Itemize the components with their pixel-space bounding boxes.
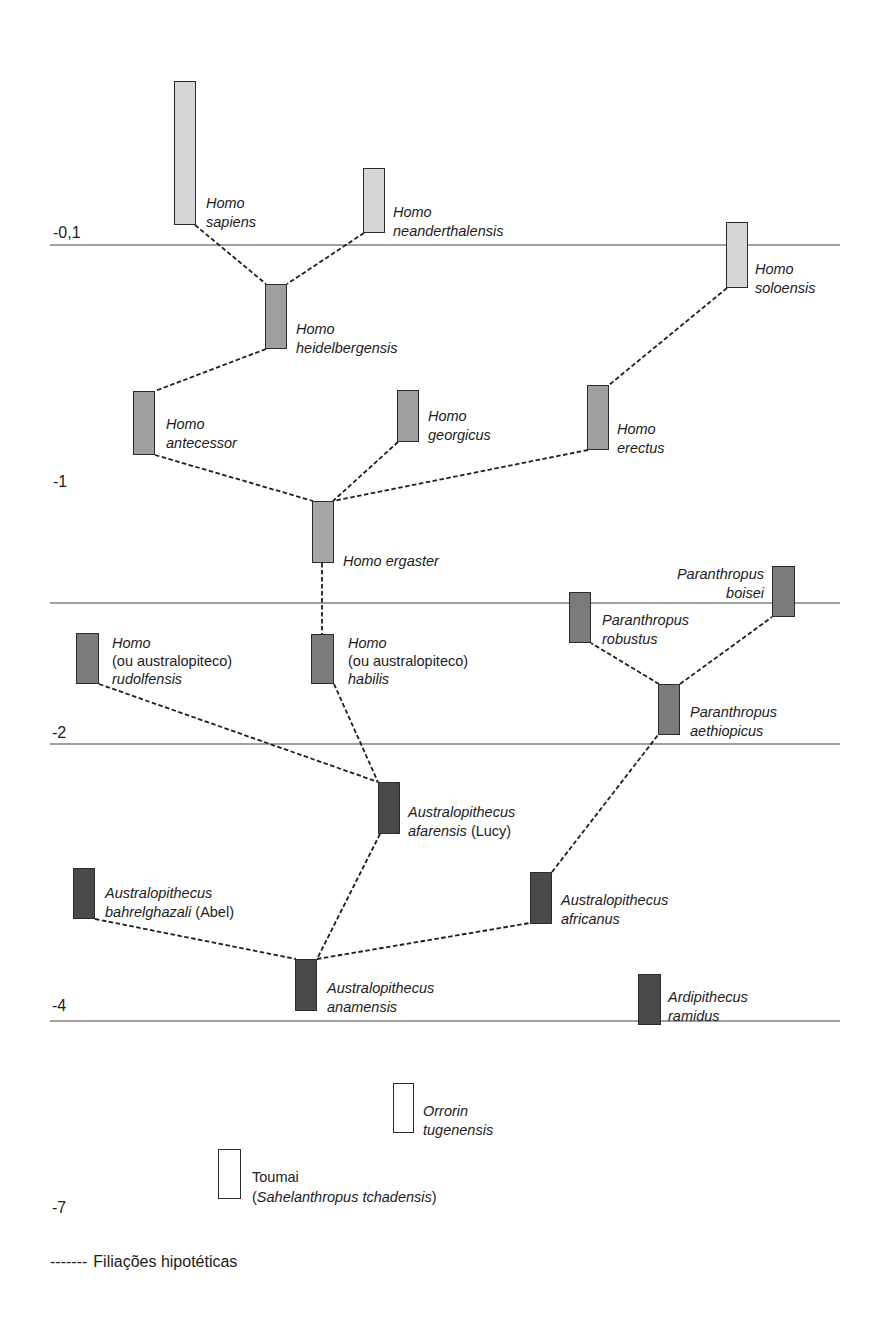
filiation-neanderthalensis-heidelbergensis bbox=[287, 233, 364, 284]
genus-name: Homo bbox=[112, 635, 151, 651]
label-homo-soloensis: Homo soloensis bbox=[755, 260, 815, 297]
genus-name: Homo bbox=[393, 204, 432, 220]
species-epithet: heidelbergensis bbox=[296, 340, 398, 356]
filiation-africanus-aethiopicus bbox=[552, 735, 658, 872]
box-homo-georgicus bbox=[397, 390, 419, 442]
box-homo-ergaster bbox=[312, 501, 334, 563]
label-toumai: Toumai (Sahelanthropus tchadensis) bbox=[252, 1168, 437, 1207]
specimen-nickname: (Abel) bbox=[195, 904, 234, 920]
box-homo-soloensis bbox=[726, 222, 748, 288]
filiation-aethiopicus-robustus bbox=[591, 643, 659, 684]
legend-label: Filiações hipotéticas bbox=[93, 1253, 237, 1270]
filiation-heidelbergensis-antecessor bbox=[155, 349, 266, 391]
label-paranthropus-aethiopicus: Paranthropus aethiopicus bbox=[690, 703, 777, 740]
species-epithet: soloensis bbox=[755, 280, 815, 296]
filiation-soloensis-erectus bbox=[609, 288, 727, 385]
label-homo-antecessor: Homo antecessor bbox=[166, 415, 237, 452]
species-epithet: afarensis bbox=[408, 823, 467, 839]
genus-name: Homo bbox=[296, 321, 335, 337]
genus-name: Australopithecus bbox=[561, 892, 668, 908]
genus-name: Sahelanthropus bbox=[257, 1189, 359, 1205]
species-epithet: antecessor bbox=[166, 435, 237, 451]
legend: -------Filiações hipotéticas bbox=[50, 1252, 237, 1272]
species-epithet: habilis bbox=[348, 671, 389, 687]
genus-name: Australopithecus bbox=[327, 980, 434, 996]
species-epithet: tchadensis bbox=[362, 1189, 431, 1205]
filiation-antecessor-ergaster bbox=[155, 455, 313, 501]
genus-name: Ardipithecus bbox=[668, 989, 748, 1005]
box-paranthropus-boisei bbox=[772, 566, 795, 617]
genus-name: Homo bbox=[166, 416, 205, 432]
hominid-phylogeny-diagram: -0,1 -1 -2 -4 -7 Homo sapiens Homo neand… bbox=[0, 0, 893, 1324]
genus-name: Paranthropus bbox=[690, 704, 777, 720]
box-homo-heidelbergensis bbox=[265, 284, 287, 349]
genus-name: Paranthropus bbox=[602, 612, 689, 628]
label-ardipithecus-ramidus: Ardipithecus ramidus bbox=[668, 988, 748, 1025]
box-orrorin-tugenensis bbox=[393, 1083, 414, 1133]
species-epithet: aethiopicus bbox=[690, 723, 763, 739]
genus-name: Homo bbox=[617, 421, 656, 437]
filiation-anamensis-africanus bbox=[317, 923, 530, 959]
genus-note: (ou australopiteco) bbox=[348, 653, 468, 669]
species-epithet: boisei bbox=[726, 585, 764, 601]
species-epithet: neanderthalensis bbox=[393, 223, 503, 239]
box-australopithecus-afarensis bbox=[378, 782, 400, 834]
box-paranthropus-aethiopicus bbox=[658, 684, 680, 735]
box-homo-habilis bbox=[311, 634, 334, 684]
genus-name: Homo bbox=[206, 195, 245, 211]
label-orrorin-tugenensis: Orrorin tugenensis bbox=[423, 1102, 493, 1139]
label-australopithecus-afarensis: Australopithecus afarensis (Lucy) bbox=[408, 803, 515, 840]
label-paranthropus-robustus: Paranthropus robustus bbox=[602, 611, 689, 648]
box-paranthropus-robustus bbox=[569, 592, 591, 643]
label-australopithecus-bahrelghazali: Australopithecus bahrelghazali (Abel) bbox=[105, 884, 234, 921]
genus-name: Australopithecus bbox=[408, 804, 515, 820]
box-australopithecus-anamensis bbox=[295, 959, 317, 1011]
box-homo-antecessor bbox=[133, 391, 155, 455]
genus-name: Orrorin bbox=[423, 1103, 468, 1119]
label-australopithecus-anamensis: Australopithecus anamensis bbox=[327, 979, 434, 1016]
species-epithet: anamensis bbox=[327, 999, 397, 1015]
box-homo-sapiens bbox=[174, 81, 196, 225]
box-homo-rudolfensis bbox=[76, 633, 99, 684]
species-epithet: georgicus bbox=[428, 427, 491, 443]
label-homo-sapiens: Homo sapiens bbox=[206, 194, 256, 231]
species-epithet: ergaster bbox=[386, 553, 439, 569]
filiation-sapiens-heidelbergensis bbox=[195, 225, 266, 284]
filiation-erectus-ergaster bbox=[333, 450, 588, 501]
filiation-habilis-afarensis bbox=[334, 684, 378, 782]
genus-name: Homo bbox=[428, 408, 467, 424]
box-toumai bbox=[218, 1149, 241, 1199]
time-label-1: -1 bbox=[53, 473, 67, 491]
genus-name: Homo bbox=[348, 635, 387, 651]
species-epithet: rudolfensis bbox=[112, 671, 182, 687]
label-homo-habilis: Homo (ou australopiteco) habilis bbox=[348, 634, 468, 688]
box-australopithecus-africanus bbox=[530, 872, 552, 924]
label-homo-ergaster: Homo ergaster bbox=[343, 552, 439, 571]
box-ardipithecus-ramidus bbox=[638, 974, 661, 1025]
filiation-rudolfensis-afarensis bbox=[99, 684, 378, 782]
genus-note: (ou australopiteco) bbox=[112, 653, 232, 669]
species-epithet: bahrelghazali bbox=[105, 904, 191, 920]
label-homo-georgicus: Homo georgicus bbox=[428, 407, 491, 444]
species-epithet: sapiens bbox=[206, 214, 256, 230]
label-homo-neanderthalensis: Homo neanderthalensis bbox=[393, 203, 503, 240]
box-homo-neanderthalensis bbox=[363, 168, 385, 233]
genus-name: Homo bbox=[343, 553, 382, 569]
label-paranthropus-boisei: Paranthropus boisei bbox=[677, 565, 764, 602]
genus-name: Homo bbox=[755, 261, 794, 277]
species-epithet: erectus bbox=[617, 440, 665, 456]
time-label-2: -2 bbox=[52, 724, 66, 742]
dashed-line-sample-icon: ------- bbox=[50, 1253, 87, 1270]
label-homo-erectus: Homo erectus bbox=[617, 420, 665, 457]
species-epithet: africanus bbox=[561, 911, 620, 927]
time-label-7: -7 bbox=[52, 1199, 66, 1217]
species-epithet: ramidus bbox=[668, 1008, 720, 1024]
label-homo-heidelbergensis: Homo heidelbergensis bbox=[296, 320, 398, 357]
specimen-nickname: (Lucy) bbox=[471, 823, 511, 839]
species-epithet: tugenensis bbox=[423, 1122, 493, 1138]
filiation-georgicus-ergaster bbox=[333, 442, 398, 501]
paren-close: ) bbox=[432, 1189, 437, 1205]
genus-name: Australopithecus bbox=[105, 885, 212, 901]
box-australopithecus-bahrelghazali bbox=[73, 868, 95, 919]
filiation-aethiopicus-boisei bbox=[680, 617, 772, 684]
